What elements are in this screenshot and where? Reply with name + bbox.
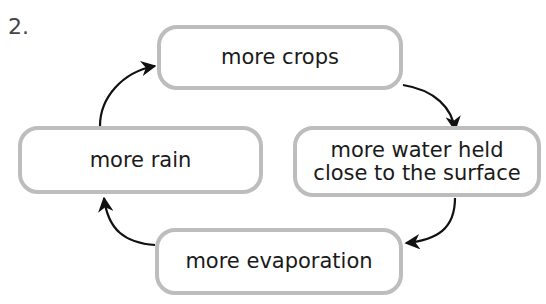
node-more-water: more water held close to the surface	[293, 126, 541, 197]
node-label: more water held close to the surface	[313, 139, 520, 185]
node-label: more crops	[221, 46, 339, 69]
node-more-crops: more crops	[157, 25, 403, 90]
arrow-water-to-evaporation	[406, 198, 455, 243]
node-label: more evaporation	[185, 250, 372, 273]
arrow-evaporation-to-rain	[104, 198, 155, 245]
node-more-evaporation: more evaporation	[155, 228, 403, 295]
arrow-crops-to-water	[403, 85, 455, 130]
node-label: more rain	[90, 149, 192, 172]
arrow-rain-to-crops	[100, 66, 155, 126]
node-more-rain: more rain	[18, 126, 263, 194]
